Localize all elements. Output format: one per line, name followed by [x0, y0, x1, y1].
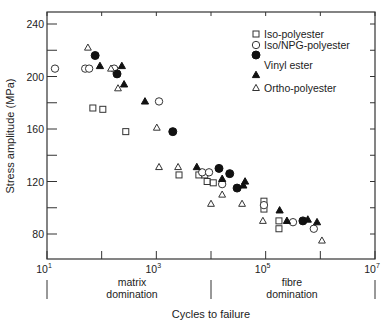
region-label: domination	[106, 288, 158, 300]
open-square-marker	[276, 226, 282, 232]
filled-triangle-marker	[313, 218, 320, 224]
axis-ticks: 10110310510780120160200240	[26, 12, 379, 275]
open-triangle-marker	[85, 44, 92, 50]
series-vinyl-ester-circle-	[91, 52, 307, 225]
open-square-marker	[276, 218, 282, 224]
y-tick-label: 240	[26, 18, 44, 30]
fatigue-scatter-chart: 10110310510780120160200240 Iso-polyester…	[0, 0, 388, 329]
filled-triangle-marker	[219, 175, 226, 181]
legend-item: Vinyl ester	[252, 51, 313, 78]
open-circle-marker	[85, 65, 92, 72]
y-tick-label: 160	[26, 123, 44, 135]
legend-label: Iso/NPG-polyester	[264, 39, 350, 51]
filled-triangle-marker	[276, 207, 283, 213]
series-iso-polyester	[90, 105, 282, 232]
open-square-marker	[204, 179, 210, 185]
legend: Iso-polyesterIso/NPG-polyesterVinyl este…	[252, 28, 350, 94]
open-triangle-marker	[260, 217, 267, 223]
filled-circle-marker	[91, 52, 99, 60]
data-points	[51, 44, 325, 243]
x-tick-label: 107	[364, 262, 380, 275]
filled-circle-marker	[226, 170, 234, 178]
y-tick-label: 200	[26, 71, 44, 83]
x-tick-label: 103	[146, 262, 162, 275]
open-circle-marker	[252, 41, 259, 48]
x-tick-label: 105	[255, 262, 271, 275]
open-triangle-marker	[175, 163, 182, 169]
open-square-marker	[90, 105, 96, 111]
open-square-marker	[253, 31, 259, 37]
open-circle-marker	[310, 225, 317, 232]
open-triangle-marker	[319, 237, 326, 243]
open-square-marker	[100, 106, 106, 112]
filled-triangle-marker	[120, 81, 127, 87]
region-label: fibre	[282, 276, 303, 288]
open-circle-marker	[51, 65, 58, 72]
open-triangle-marker	[156, 163, 163, 169]
open-circle-marker	[155, 98, 162, 105]
domination-regions: matrixdominationfibredomination	[47, 276, 375, 300]
y-tick-label: 120	[26, 176, 44, 188]
open-square-marker	[176, 172, 182, 178]
legend-label: Ortho-polyester	[264, 82, 337, 94]
filled-circle-marker	[252, 51, 260, 59]
region-label: domination	[266, 288, 318, 300]
open-triangle-marker	[253, 84, 260, 90]
y-axis-label: Stress amplitude (MPa)	[4, 79, 16, 194]
open-triangle-marker	[115, 85, 122, 91]
filled-triangle-marker	[141, 98, 148, 104]
open-circle-marker	[205, 169, 212, 176]
x-tick-label: 101	[36, 262, 52, 275]
filled-triangle-marker	[96, 62, 103, 68]
filled-triangle-marker	[118, 62, 125, 68]
legend-item: Ortho-polyester	[253, 82, 337, 94]
open-circle-marker	[289, 218, 296, 225]
filled-triangle-marker	[252, 71, 259, 77]
open-triangle-marker	[208, 200, 215, 206]
open-triangle-marker	[219, 191, 226, 197]
y-tick-label: 80	[32, 228, 44, 240]
open-square-marker	[123, 129, 129, 135]
filled-circle-marker	[215, 164, 223, 172]
filled-circle-marker	[169, 128, 177, 136]
legend-item: Iso/NPG-polyester	[252, 39, 350, 51]
open-triangle-marker	[239, 200, 246, 206]
x-axis-label: Cycles to failure	[172, 308, 250, 320]
filled-triangle-marker	[241, 178, 248, 184]
open-square-marker	[210, 180, 216, 186]
open-triangle-marker	[153, 124, 160, 130]
open-circle-marker	[260, 201, 267, 208]
region-label: matrix	[118, 276, 147, 288]
legend-label: Vinyl ester	[264, 59, 313, 71]
filled-triangle-marker	[193, 163, 200, 169]
